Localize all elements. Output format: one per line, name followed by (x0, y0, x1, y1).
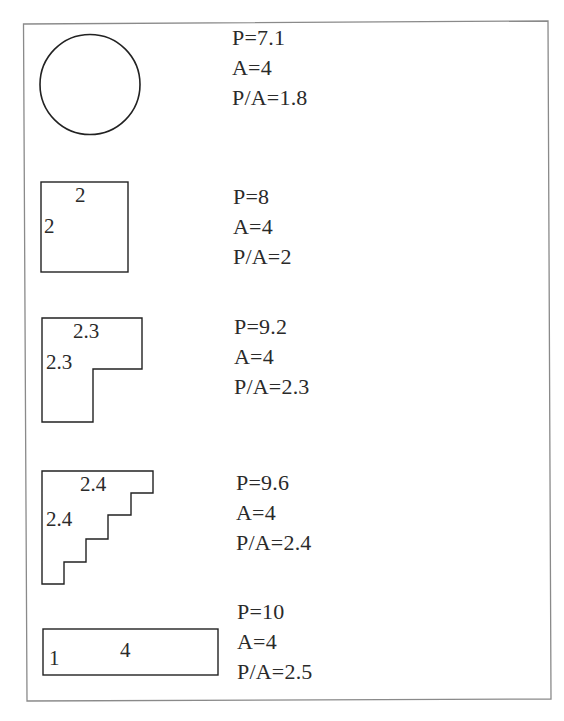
perimeter-value: P=8 (233, 182, 292, 212)
circle-shape (40, 35, 140, 135)
ratio-value: P/A=2 (233, 242, 292, 272)
square-side-dimension: 2 (44, 216, 55, 237)
ratio-value: P/A=2.4 (236, 528, 312, 558)
perimeter-value: P=10 (237, 597, 313, 627)
staircase-top-dimension: 2.4 (80, 474, 106, 495)
area-value: A=4 (234, 342, 310, 372)
staircase-stats: P=9.6 A=4 P/A=2.4 (236, 468, 312, 558)
area-value: A=4 (232, 53, 308, 83)
square-stats: P=8 A=4 P/A=2 (233, 182, 292, 272)
area-value: A=4 (237, 627, 313, 657)
ratio-value: P/A=2.3 (234, 372, 310, 402)
perimeter-value: P=9.6 (236, 468, 312, 498)
rectangle-top-dimension: 4 (120, 640, 131, 661)
rectangle-side-dimension: 1 (49, 648, 60, 669)
ratio-value: P/A=1.8 (232, 83, 308, 113)
l-shape-top-dimension: 2.3 (73, 321, 99, 342)
ratio-value: P/A=2.5 (237, 657, 313, 687)
rectangle-stats: P=10 A=4 P/A=2.5 (237, 597, 313, 687)
perimeter-value: P=9.2 (234, 312, 310, 342)
perimeter-value: P=7.1 (232, 23, 308, 53)
square-top-dimension: 2 (75, 185, 86, 206)
l-shape-stats: P=9.2 A=4 P/A=2.3 (234, 312, 310, 402)
area-value: A=4 (233, 212, 292, 242)
shape-comparison-figure: 2 2 2.3 2.3 2.4 2.4 4 1 P=7.1 A=4 P/A=1.… (0, 0, 564, 721)
staircase-side-dimension: 2.4 (46, 509, 72, 530)
circle-stats: P=7.1 A=4 P/A=1.8 (232, 23, 308, 113)
area-value: A=4 (236, 498, 312, 528)
l-shape-side-dimension: 2.3 (46, 352, 72, 373)
